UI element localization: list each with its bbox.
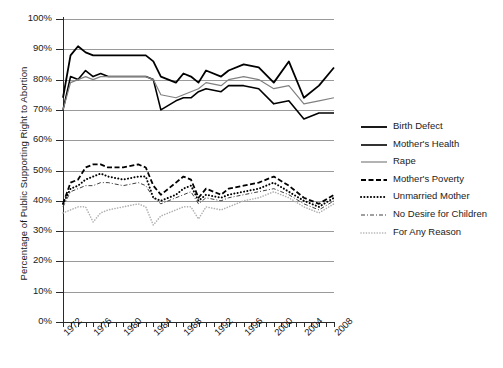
y-axis-tick-label: 60% xyxy=(18,134,52,143)
y-axis-tick-label: 10% xyxy=(18,286,52,295)
series-line xyxy=(63,183,334,210)
legend-item[interactable]: No Desire for Children xyxy=(361,206,501,224)
y-axis-tick xyxy=(56,261,63,262)
y-axis-tick-label: 20% xyxy=(18,255,52,264)
y-axis-tick-label: 30% xyxy=(18,225,52,234)
legend-item[interactable]: Mother's Health xyxy=(361,136,501,154)
legend-label: Unmarried Mother xyxy=(393,188,470,203)
chart-legend: Birth DefectMother's HealthRapeMother's … xyxy=(361,118,501,241)
series-lines xyxy=(63,19,334,322)
legend-item[interactable]: Birth Defect xyxy=(361,118,501,136)
y-axis-tick-label: 40% xyxy=(18,195,52,204)
x-axis-tick xyxy=(116,322,117,327)
legend-item[interactable]: Mother's Poverty xyxy=(361,171,501,189)
y-axis-tick xyxy=(56,322,63,323)
solid-line-swatch xyxy=(361,143,387,147)
legend-label: Rape xyxy=(393,153,416,168)
x-axis-tick xyxy=(236,322,237,327)
dotted-line-swatch xyxy=(361,195,387,199)
legend-label: For Any Reason xyxy=(393,224,461,239)
x-axis-tick-label: 2008 xyxy=(332,315,355,338)
y-axis-tick xyxy=(56,110,63,111)
dashed-line-swatch xyxy=(361,178,387,182)
y-axis-tick-label: 50% xyxy=(18,165,52,174)
legend-label: Birth Defect xyxy=(393,118,443,133)
legend-label: Mother's Health xyxy=(393,136,459,151)
y-axis-tick xyxy=(56,49,63,50)
x-axis-tick xyxy=(266,322,267,327)
y-axis-tick-label: 80% xyxy=(18,74,52,83)
y-axis-tick xyxy=(56,19,63,20)
legend-item[interactable]: Unmarried Mother xyxy=(361,188,501,206)
x-axis-tick xyxy=(176,322,177,327)
y-axis-tick-label: 100% xyxy=(18,13,52,22)
y-axis-tick-label: 0% xyxy=(18,316,52,325)
legend-label: Mother's Poverty xyxy=(393,171,464,186)
x-axis-tick xyxy=(296,322,297,327)
y-axis-tick xyxy=(56,80,63,81)
x-axis-tick xyxy=(146,322,147,327)
thin-gray-line-swatch xyxy=(361,160,387,164)
fine-dotted-line-swatch xyxy=(361,231,387,235)
x-axis-tick xyxy=(326,322,327,327)
x-axis-tick xyxy=(206,322,207,327)
solid-line-swatch xyxy=(361,125,387,129)
legend-item[interactable]: For Any Reason xyxy=(361,224,501,242)
legend-item[interactable]: Rape xyxy=(361,153,501,171)
y-axis-tick xyxy=(56,201,63,202)
y-axis-tick-label: 90% xyxy=(18,43,52,52)
y-axis-tick xyxy=(56,171,63,172)
legend-label: No Desire for Children xyxy=(393,206,487,221)
y-axis-tick xyxy=(56,140,63,141)
series-line xyxy=(63,46,334,98)
y-axis-tick xyxy=(56,231,63,232)
y-axis-tick-label: 70% xyxy=(18,104,52,113)
x-axis-tick xyxy=(86,322,87,327)
dash-dot-line-swatch xyxy=(361,213,387,217)
series-line xyxy=(63,164,334,203)
y-axis-tick xyxy=(56,292,63,293)
chart-figure: Percentage of Public Supporting Right to… xyxy=(0,0,503,368)
series-line xyxy=(63,71,334,119)
